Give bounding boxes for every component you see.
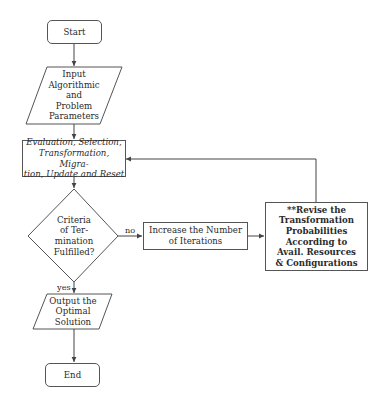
increase-iterations-node: Increase the Number of Iterations xyxy=(143,222,248,250)
output-line-2: Optimal xyxy=(56,306,91,317)
decision-line-2: of Ter- xyxy=(60,225,88,236)
revise-line-2: Transformation xyxy=(279,215,354,226)
revise-line-3: Probabilities xyxy=(286,226,348,237)
decision-line-1: Criteria xyxy=(57,215,91,226)
input-line-2: Algorithmic xyxy=(48,80,99,91)
process-line-2: Transformation, Migra- xyxy=(23,148,125,169)
revise-line-4: According to xyxy=(286,237,348,248)
increase-line-2: of Iterations xyxy=(169,236,223,247)
decision-node: Criteria of Ter- mination Fulfilled? xyxy=(44,212,104,260)
increase-line-1: Increase the Number xyxy=(149,225,242,236)
output-line-1: Output the xyxy=(49,296,96,307)
edge-revise-process xyxy=(126,159,316,202)
input-line-4: Problem xyxy=(56,101,93,112)
end-node: End xyxy=(45,363,100,387)
process-node: Evaluation, Selection, Transformation, M… xyxy=(22,140,126,177)
process-line-1: Evaluation, Selection, xyxy=(26,137,121,148)
start-node: Start xyxy=(47,20,102,44)
revise-probabilities-node: **Revise the Transformation Probabilitie… xyxy=(265,202,368,271)
revise-line-6: & Configurations xyxy=(275,258,357,269)
decision-line-4: Fulfilled? xyxy=(54,247,95,258)
revise-line-1: **Revise the xyxy=(287,205,346,216)
output-node: Output the Optimal Solution xyxy=(40,294,106,329)
edge-label-yes: yes xyxy=(57,282,71,292)
input-line-3: and xyxy=(66,90,82,101)
edge-label-no: no xyxy=(125,225,135,235)
decision-line-3: mination xyxy=(55,236,93,247)
process-line-3: tion, Update and Reset xyxy=(24,169,124,180)
input-line-5: Parameters xyxy=(49,111,99,122)
start-label: Start xyxy=(63,27,85,38)
output-line-3: Solution xyxy=(55,317,91,328)
revise-line-5: Avail. Resources xyxy=(277,247,356,258)
input-line-1: Input xyxy=(62,69,85,80)
end-label: End xyxy=(64,370,81,381)
input-node: Input Algorithmic and Problem Parameters xyxy=(34,67,114,124)
